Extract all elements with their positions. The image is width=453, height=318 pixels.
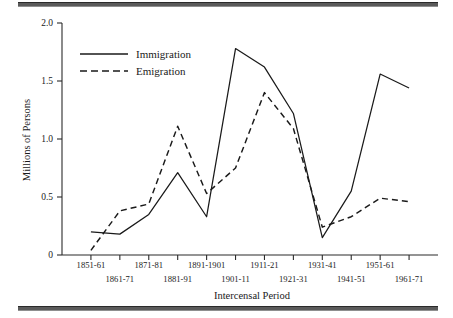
chart-figure: 00.51.01.52.0 1851-611861-711871-811881-… <box>0 0 453 318</box>
top-rule <box>18 2 438 7</box>
x-tick-label: 1961-71 <box>395 274 424 284</box>
x-tick-label: 1861-71 <box>106 274 135 284</box>
x-tick-label: 1851-61 <box>77 260 106 270</box>
x-tick-label: 1941-51 <box>337 274 366 284</box>
x-tick-label: 1901-11 <box>221 274 249 284</box>
y-axis-title: Millions of Persons <box>21 99 32 181</box>
y-tick-label: 0.5 <box>41 192 53 202</box>
x-tick-label: 1881-91 <box>163 274 192 284</box>
x-tick-label: 1951-61 <box>366 260 395 270</box>
y-axis-ticks <box>57 23 62 255</box>
legend-label-emigration: Emigration <box>136 65 186 77</box>
x-tick-label: 1891-1901 <box>188 260 225 270</box>
x-axis-title: Intercensal Period <box>214 290 291 301</box>
y-tick-label: 1.0 <box>41 134 53 144</box>
y-axis-tick-labels: 00.51.01.52.0 <box>41 18 53 260</box>
x-tick-label: 1911-21 <box>250 260 278 270</box>
x-axis-tick-labels: 1851-611861-711871-811881-911891-1901190… <box>77 260 424 284</box>
y-tick-label: 1.5 <box>41 76 53 86</box>
x-tick-label: 1871-81 <box>134 260 163 270</box>
series-line-emigration <box>91 93 409 251</box>
x-tick-label: 1921-31 <box>279 274 308 284</box>
y-tick-label: 0 <box>48 250 53 260</box>
chart-legend: Immigration Emigration <box>80 48 191 77</box>
line-chart: 00.51.01.52.0 1851-611861-711871-811881-… <box>0 0 453 318</box>
x-tick-label: 1931-41 <box>308 260 337 270</box>
y-tick-label: 2.0 <box>41 18 53 28</box>
legend-label-immigration: Immigration <box>136 48 191 60</box>
bottom-rule <box>18 306 438 311</box>
